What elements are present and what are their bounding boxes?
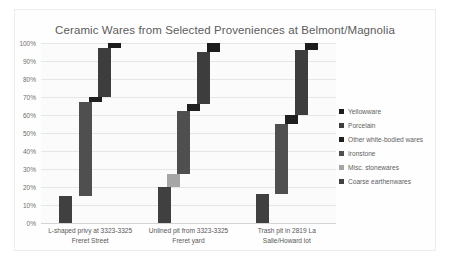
y-axis-tick-label: 40%: [23, 148, 36, 155]
gridline: [41, 97, 336, 98]
bar-segment[interactable]: [305, 43, 318, 50]
legend-item[interactable]: Yellowware: [339, 104, 435, 118]
y-axis-tick-label: 90%: [23, 58, 36, 65]
y-axis-tick-label: 80%: [23, 76, 36, 83]
legend-item[interactable]: Other white-bodied wares: [339, 132, 435, 146]
bar-segment[interactable]: [256, 194, 269, 223]
y-axis-tick-label: 100%: [19, 40, 36, 47]
y-axis-tick-label: 10%: [23, 202, 36, 209]
bar-segment[interactable]: [98, 48, 111, 97]
bar-segment[interactable]: [108, 43, 121, 48]
bar-segment[interactable]: [158, 187, 171, 223]
x-axis-tick-label: Trash pit in 2819 La Salle/Howard lot: [238, 226, 336, 246]
bar-segment[interactable]: [167, 174, 180, 187]
legend-swatch-icon: [339, 151, 344, 156]
legend-swatch-icon: [339, 137, 344, 142]
bar-segment[interactable]: [207, 43, 220, 52]
bar-segment[interactable]: [187, 104, 200, 111]
legend-item-label: Other white-bodied wares: [348, 136, 423, 143]
bar-segment[interactable]: [275, 124, 288, 194]
bar-segment[interactable]: [177, 111, 190, 174]
y-axis-tick-label: 70%: [23, 94, 36, 101]
legend-item-label: Misc. stonewares: [348, 164, 399, 171]
y-axis-tick-label: 60%: [23, 112, 36, 119]
bar-segment[interactable]: [285, 115, 298, 124]
legend-swatch-icon: [339, 123, 344, 128]
legend-swatch-icon: [339, 165, 344, 170]
legend-item[interactable]: Coarse earthenwares: [339, 174, 435, 188]
y-axis-tick-label: 0%: [27, 220, 36, 227]
chart-legend: YellowwarePorcelainOther white-bodied wa…: [339, 104, 435, 188]
legend-swatch-icon: [339, 109, 344, 114]
chart-card: Ceramic Wares from Selected Proveniences…: [14, 9, 436, 251]
legend-item[interactable]: Misc. stonewares: [339, 160, 435, 174]
legend-item-label: Ironstone: [348, 150, 376, 157]
y-axis-tick-label: 20%: [23, 184, 36, 191]
y-axis: 100%90%80%70%60%50%40%30%20%10%0%: [15, 43, 39, 223]
legend-item-label: Porcelain: [348, 122, 376, 129]
legend-item-label: Yellowware: [348, 108, 381, 115]
legend-swatch-icon: [339, 179, 344, 184]
gridline: [41, 223, 336, 224]
bar-segment[interactable]: [89, 97, 102, 102]
y-axis-tick-label: 30%: [23, 166, 36, 173]
bar-segment[interactable]: [197, 52, 210, 104]
x-axis: L-shaped privy at 3323-3325 Freret Stree…: [41, 226, 336, 260]
bar-segment[interactable]: [295, 50, 308, 115]
gridline: [41, 205, 336, 206]
bar-segment[interactable]: [59, 196, 72, 223]
x-axis-tick-label: Unlined pit from 3323-3325 Freret yard: [139, 226, 237, 246]
gridline: [41, 61, 336, 62]
y-axis-tick-label: 50%: [23, 130, 36, 137]
legend-item[interactable]: Porcelain: [339, 118, 435, 132]
chart-title: Ceramic Wares from Selected Proveniences…: [15, 24, 435, 36]
plot-area: [41, 43, 336, 223]
x-axis-tick-label: L-shaped privy at 3323-3325 Freret Stree…: [41, 226, 139, 246]
gridline: [41, 43, 336, 44]
legend-item-label: Coarse earthenwares: [348, 178, 411, 185]
gridline: [41, 79, 336, 80]
legend-item[interactable]: Ironstone: [339, 146, 435, 160]
bar-segment[interactable]: [79, 102, 92, 196]
